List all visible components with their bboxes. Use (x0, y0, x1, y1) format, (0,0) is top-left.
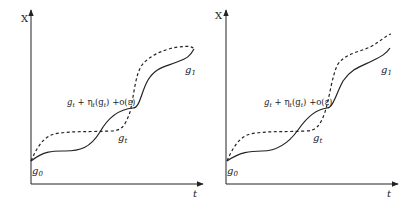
mid-label: gt (118, 132, 127, 145)
diagram-canvas: X t g0 g1 gt gt + ηt(gt) +o(ε) X t g0 g1… (0, 0, 417, 205)
y-axis-label: X (215, 10, 223, 21)
mid-label: gt (313, 132, 322, 145)
expression-label: gt + ηt(gt) +o(ε) (67, 97, 135, 108)
y-axis-label: X (21, 13, 29, 24)
expression-label: gt + ηt(gt) +o(ε) (264, 97, 332, 108)
start-label: g0 (32, 165, 43, 178)
x-axis-label: t (387, 188, 392, 199)
end-label: g1 (381, 64, 392, 77)
panel-left: X t g0 g1 gt gt + ηt(gt) +o(ε) (21, 10, 203, 199)
start-label: g0 (227, 165, 238, 178)
panel-right: X t g0 g1 gt gt + ηt(gt) +o(ε) (215, 10, 398, 199)
x-axis-label: t (193, 188, 198, 199)
end-label: g1 (185, 64, 196, 77)
